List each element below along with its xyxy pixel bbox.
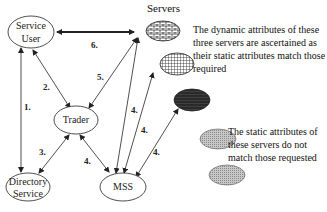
mss-label: MSS [113, 181, 133, 192]
step-label-1: 1. [24, 102, 31, 112]
service-user-label-1: Service [16, 20, 47, 31]
servers-title: Servers [147, 2, 180, 14]
server-grid-node [160, 53, 194, 75]
step-label-4a: 4. [84, 156, 91, 166]
arrow-step-4-server2 [124, 73, 153, 173]
arrow-step-4-trader-mss [80, 135, 109, 172]
server-brick-node [146, 21, 180, 41]
static-attributes-note: The static attributes of these servers d… [228, 125, 327, 164]
dynamic-attributes-note: The dynamic attributes of these three se… [193, 23, 327, 75]
directory-service-label-1: Directory [9, 176, 47, 187]
arrow-step-4-server3 [136, 109, 178, 177]
arrow-step-2 [33, 50, 70, 108]
step-label-4b: 4. [131, 105, 138, 115]
step-label-6: 6. [91, 40, 98, 50]
directory-service-label-2: Service [13, 188, 44, 199]
step-label-5: 5. [97, 72, 104, 82]
trader-label: Trader [63, 114, 90, 125]
step-label-4d: 4. [153, 147, 160, 157]
server-dark-node [174, 89, 210, 111]
step-label-2: 2. [43, 82, 50, 92]
step-label-3: 3. [39, 147, 46, 157]
service-user-label-2: User [22, 33, 42, 44]
step-label-4c: 4. [141, 125, 148, 135]
server-static-mismatch-2 [209, 165, 245, 185]
